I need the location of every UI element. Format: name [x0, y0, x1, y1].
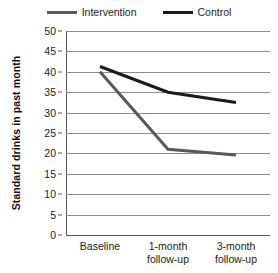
x-tick-label-line: 1-month: [147, 240, 189, 253]
legend-label-intervention: Intervention: [82, 6, 137, 18]
legend-label-control: Control: [198, 6, 232, 18]
series-container: [66, 31, 270, 235]
x-tick-label-0: Baseline: [80, 240, 120, 253]
y-tick-mark-5: [58, 214, 62, 215]
y-tick-label-20: 20: [44, 148, 56, 159]
x-tick-label-line: 3-month: [215, 240, 257, 253]
plot-area: [66, 31, 270, 235]
y-axis-tick-labels: 50454035302520151050: [0, 31, 62, 235]
legend-swatch-control: [163, 11, 193, 14]
y-tick-label-40: 40: [44, 66, 56, 77]
y-tick-label-0: 0: [50, 230, 56, 241]
chart-legend: Intervention Control: [0, 6, 278, 18]
x-tick-label-2: 3-monthfollow-up: [215, 240, 257, 265]
x-tick-label-line: follow-up: [215, 253, 257, 266]
line-chart-figure: Intervention Control Standard drinks in …: [0, 0, 278, 273]
gridline-0: [66, 235, 270, 236]
y-tick-mark-50: [58, 31, 62, 32]
y-tick-mark-45: [58, 51, 62, 52]
y-tick-mark-20: [58, 153, 62, 154]
y-tick-label-45: 45: [44, 46, 56, 57]
y-tick-mark-25: [58, 133, 62, 134]
y-tick-label-30: 30: [44, 107, 56, 118]
y-tick-label-50: 50: [44, 26, 56, 37]
y-tick-mark-40: [58, 71, 62, 72]
series-line-intervention: [100, 72, 236, 155]
y-tick-mark-10: [58, 194, 62, 195]
x-tick-label-1: 1-monthfollow-up: [147, 240, 189, 265]
y-tick-mark-15: [58, 173, 62, 174]
x-tick-label-line: Baseline: [80, 240, 120, 253]
y-tick-label-15: 15: [44, 168, 56, 179]
legend-item-intervention: Intervention: [47, 6, 137, 18]
y-tick-label-25: 25: [44, 128, 56, 139]
y-tick-label-5: 5: [50, 209, 56, 220]
y-tick-mark-30: [58, 112, 62, 113]
y-tick-label-35: 35: [44, 87, 56, 98]
x-tick-label-line: follow-up: [147, 253, 189, 266]
legend-item-control: Control: [163, 6, 232, 18]
x-axis-tick-labels: Baseline1-monthfollow-up3-monthfollow-up: [66, 240, 270, 273]
y-tick-mark-35: [58, 92, 62, 93]
y-tick-label-10: 10: [44, 189, 56, 200]
legend-swatch-intervention: [47, 11, 77, 14]
y-tick-mark-0: [58, 235, 62, 236]
